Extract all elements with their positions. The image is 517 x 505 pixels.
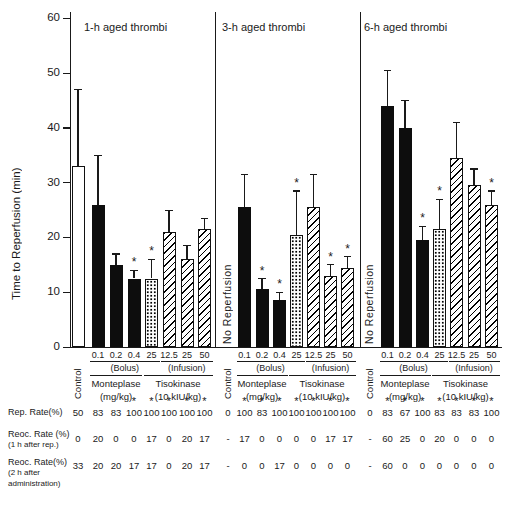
bar [72, 166, 85, 347]
error-bar-cap [327, 264, 335, 265]
infusion-bracket [449, 361, 500, 362]
error-bar-cap [419, 226, 427, 227]
error-bar-cap [401, 100, 409, 101]
panel-title: 6-h aged thrombi [364, 21, 447, 33]
tisokinase-bracket [289, 375, 356, 376]
error-bar-line [473, 169, 474, 185]
bar [341, 268, 354, 347]
infusion-bracket [161, 361, 213, 362]
error-bar-cap [384, 70, 392, 71]
table-row-sublabel-reoc-rate-1h: (1 h after rep.) [8, 440, 59, 449]
error-bar-line [456, 122, 457, 158]
bar [416, 240, 429, 347]
y-axis-tick-label: 50 [34, 66, 60, 78]
rep-rate-star: * [308, 395, 320, 407]
table-row-label-reoc-rate-2h: Reoc. Rate(%) [8, 457, 67, 467]
bolus-label: (Bolus) [237, 363, 305, 373]
rep-rate-star: * [181, 395, 193, 407]
error-bar-cap [436, 199, 444, 200]
rep-rate-value: 100 [479, 407, 505, 418]
reoc-rate-2h-value: 0 [479, 460, 505, 471]
rep-rate-star: * [399, 395, 411, 407]
error-bar-cap [112, 253, 120, 254]
error-bar-line [404, 100, 405, 127]
bar [450, 158, 463, 347]
dose-label: 50 [192, 350, 218, 360]
bar [433, 229, 446, 347]
y-axis-tick [63, 182, 70, 183]
error-bar-line [313, 174, 314, 207]
infusion-label: (Infusion) [161, 363, 213, 373]
y-axis-tick [63, 127, 70, 128]
error-bar-cap [310, 174, 318, 175]
chart-area: 01020304050601-h aged thrombiControl0.10… [0, 0, 517, 505]
y-axis-tick [63, 73, 70, 74]
bar [92, 205, 105, 347]
bar [256, 289, 269, 347]
rep-rate-star: * [256, 395, 268, 407]
dose-label: 50 [335, 350, 361, 360]
error-bar-line [77, 89, 78, 166]
significance-star: * [256, 264, 268, 278]
significance-star: * [417, 211, 429, 225]
tisokinase-label: Tisokinase [144, 378, 213, 389]
error-bar-line [491, 191, 492, 205]
rep-rate-star: * [342, 395, 354, 407]
bar [110, 265, 123, 347]
bar [273, 300, 286, 347]
rep-rate-value: 100 [192, 407, 218, 418]
reoc-rate-2h-value: 17 [192, 460, 218, 471]
bar [381, 106, 394, 347]
bar [399, 128, 412, 347]
y-axis-tick-label: 60 [34, 11, 60, 23]
error-bar-line [151, 259, 152, 278]
rep-rate-star: * [146, 395, 158, 407]
error-bar-cap [293, 190, 301, 191]
error-bar-cap [276, 292, 284, 293]
tisokinase-bracket [432, 375, 500, 376]
error-bar-line [439, 199, 440, 229]
control-label: Control [72, 352, 83, 399]
error-bar-cap [201, 218, 209, 219]
significance-star: * [274, 277, 286, 291]
rep-rate-star: * [325, 395, 337, 407]
bar [145, 279, 158, 348]
bolus-bracket [90, 361, 160, 362]
monteplase-label: Monteplase [380, 378, 431, 389]
rep-rate-star: * [434, 395, 446, 407]
reoc-rate-1h-value: 17 [192, 433, 218, 444]
y-axis-tick [63, 237, 70, 238]
rep-rate-star: * [451, 395, 463, 407]
error-bar-line [330, 265, 331, 276]
error-bar-line [387, 70, 388, 106]
infusion-bracket [306, 361, 356, 362]
table-row-label-reoc-rate-1h: Reoc. Rate (%) [8, 429, 70, 439]
bolus-bracket [380, 361, 448, 362]
bolus-label: (Bolus) [90, 363, 160, 373]
y-axis-tick-label: 40 [34, 121, 60, 133]
y-axis-tick-label: 20 [34, 230, 60, 242]
no-reperfusion-label: No Reperfusion [221, 240, 233, 344]
reoc-rate-1h-value: 0 [479, 433, 505, 444]
rep-rate-star: * [128, 395, 140, 407]
reperfusion-figure: Time to Reperfusion (min) 01020304050601… [0, 0, 517, 505]
panel-title: 3-h aged thrombi [222, 21, 305, 33]
rep-rate-star: * [382, 395, 394, 407]
error-bar-line [97, 155, 98, 204]
significance-star: * [291, 176, 303, 190]
error-bar-cap [488, 190, 496, 191]
monteplase-label: Monteplase [90, 378, 142, 389]
error-bar-line [279, 292, 280, 300]
bar [307, 207, 320, 347]
rep-rate-star: * [274, 395, 286, 407]
error-bar-line [133, 270, 134, 278]
table-row-label-rep-rate: Rep. Rate(%) [8, 407, 63, 417]
error-bar-cap [148, 259, 156, 260]
significance-star: * [146, 244, 158, 258]
error-bar-cap [470, 168, 478, 169]
panel-divider [215, 12, 216, 347]
bar [290, 235, 303, 347]
x-axis-line [70, 347, 502, 348]
bar [238, 207, 251, 347]
panel-title: 1-h aged thrombi [84, 21, 167, 33]
